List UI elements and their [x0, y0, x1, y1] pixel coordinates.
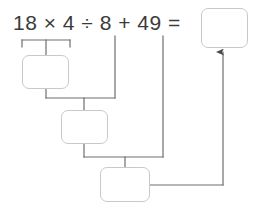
- step-2-answer-box[interactable]: [61, 110, 108, 144]
- join-step1-step2: [46, 89, 115, 110]
- step-1-answer-box[interactable]: [22, 55, 69, 89]
- bracket-18-times-4: [22, 40, 70, 55]
- step-3-answer-box[interactable]: [100, 167, 150, 202]
- arrow-step3-to-final: [150, 52, 223, 185]
- join-step2-step3: [84, 144, 163, 167]
- final-answer-box[interactable]: [201, 8, 248, 48]
- math-worksheet-diagram: 18 × 4 ÷ 8 + 49 =: [0, 0, 255, 218]
